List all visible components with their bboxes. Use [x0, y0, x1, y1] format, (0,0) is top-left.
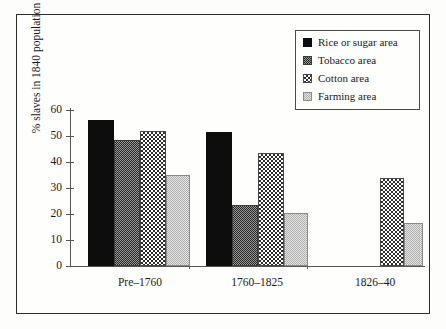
legend-swatch-farming-area	[303, 92, 312, 101]
legend-label-rice-or-sugar-area: Rice or sugar area	[318, 37, 398, 48]
legend-label-farming-area: Farming area	[318, 91, 376, 102]
bar-1760-1825-rice-or-sugar-area	[206, 132, 232, 266]
legend-item-farming-area: Farming area	[303, 91, 412, 102]
legend-swatch-rice-or-sugar-area	[303, 38, 312, 47]
y-axis-title: % slaves in 1840 population	[30, 0, 42, 148]
chart-legend: Rice or sugar area Tobacco area Cotton a…	[295, 30, 420, 110]
y-tick-50	[66, 136, 74, 137]
bar-1826-40-cotton-area	[380, 178, 404, 266]
bar-pre1760-tobacco-area	[114, 140, 140, 266]
y-tick-60	[66, 110, 74, 111]
y-tick-label-30: 30	[18, 182, 62, 194]
y-tick-label-20: 20	[18, 208, 62, 220]
legend-swatch-tobacco-area	[303, 56, 312, 65]
y-tick-10	[66, 240, 74, 241]
bar-pre1760-farming-area	[166, 175, 190, 266]
y-tick-20	[66, 214, 74, 215]
x-axis-label-1826-40: 1826–40	[325, 276, 425, 288]
bar-pre1760-cotton-area	[140, 131, 166, 266]
bar-1760-1825-farming-area	[284, 213, 308, 266]
y-tick-label-10: 10	[18, 234, 62, 246]
x-axis-label-1760-1825: 1760–1825	[207, 276, 307, 288]
legend-item-cotton-area: Cotton area	[303, 73, 412, 84]
x-axis-label-pre-1760: Pre–1760	[90, 276, 190, 288]
y-tick-30	[66, 188, 74, 189]
y-tick-label-40: 40	[18, 156, 62, 168]
bar-pre1760-rice-or-sugar-area	[88, 120, 114, 266]
y-tick-40	[66, 162, 74, 163]
bar-1826-40-farming-area	[404, 223, 423, 266]
legend-label-tobacco-area: Tobacco area	[318, 55, 376, 66]
figure-container: 60 50 40 30 20 10 0 % slaves in 1840 pop…	[0, 0, 446, 329]
legend-swatch-cotton-area	[303, 74, 312, 83]
bar-1760-1825-cotton-area	[258, 153, 284, 266]
legend-label-cotton-area: Cotton area	[318, 73, 369, 84]
x-axis-line	[70, 266, 425, 267]
y-tick-label-0: 0	[18, 260, 62, 272]
y-tick-0	[66, 266, 74, 267]
bar-1760-1825-tobacco-area	[232, 205, 258, 266]
legend-item-rice-or-sugar-area: Rice or sugar area	[303, 37, 412, 48]
legend-item-tobacco-area: Tobacco area	[303, 55, 412, 66]
plot-area: 60 50 40 30 20 10 0 % slaves in 1840 pop…	[0, 0, 446, 329]
